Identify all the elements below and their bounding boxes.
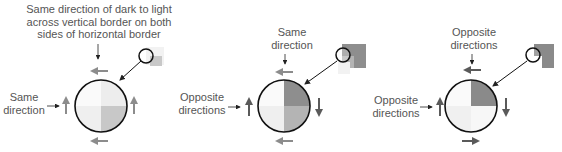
magnify-arrow bbox=[305, 61, 337, 84]
small-circle bbox=[526, 48, 540, 62]
diagram-canvas bbox=[0, 0, 562, 152]
panel1 bbox=[47, 44, 164, 141]
panel3 bbox=[420, 44, 554, 141]
magnify-arrow bbox=[120, 61, 141, 80]
small-circle bbox=[336, 48, 350, 62]
panel2 bbox=[228, 44, 366, 141]
magnify-arrow bbox=[493, 61, 527, 86]
